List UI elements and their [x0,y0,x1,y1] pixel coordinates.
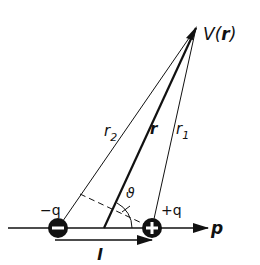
positive-charge-label: +q [161,202,182,218]
dipole-moment-label: p [210,218,223,238]
negative-charge [48,218,68,238]
r1-label: r1 [176,120,189,142]
r1-line [152,28,196,228]
potential-label: V(r) [203,24,236,44]
minus-icon [52,227,64,230]
r2-label: r2 [104,122,117,144]
positive-charge [142,218,162,238]
theta-label: ϑ [126,185,135,201]
r-vector-label: r [150,120,159,138]
separation-label: l [97,245,103,264]
negative-charge-label: −q [40,202,61,218]
dipole-diagram: V(r) r r2 r1 ϑ −q +q p l [0,0,260,265]
